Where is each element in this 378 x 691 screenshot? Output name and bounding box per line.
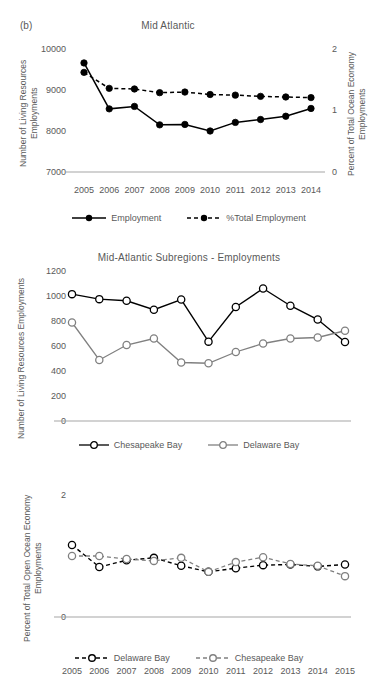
data-point [260, 285, 267, 292]
data-point [232, 559, 239, 566]
legend-item-chesapeake-bay[interactable]: Chesapeake Bay [79, 440, 183, 450]
data-point [283, 113, 289, 119]
data-point [287, 302, 294, 309]
data-point [341, 327, 348, 334]
legend-solid-marker-icon [72, 213, 106, 223]
legend-dashed-open-gray-icon [196, 653, 230, 663]
data-point [308, 105, 314, 111]
data-point [106, 106, 112, 112]
data-point [131, 86, 137, 92]
legend-item-employment[interactable]: Employment [72, 213, 161, 223]
data-point [96, 296, 103, 303]
data-point [205, 360, 212, 367]
data-point [260, 562, 267, 569]
data-point [341, 573, 348, 580]
data-point [232, 303, 239, 310]
data-point [123, 555, 130, 562]
data-point [178, 296, 185, 303]
chart-1-plot [0, 0, 378, 238]
data-point [182, 121, 188, 127]
data-point [207, 91, 213, 97]
data-point [96, 356, 103, 363]
data-point [178, 359, 185, 366]
data-point [150, 306, 157, 313]
data-point [287, 335, 294, 342]
data-point [314, 316, 321, 323]
legend-label-chesapeake-bay-pct: Chesapeake Bay [235, 653, 304, 663]
data-point [257, 93, 263, 99]
legend-label-employment: Employment [111, 213, 161, 223]
legend-dashed-open-black-icon [75, 653, 109, 663]
chart-panel-subregions-employments: Mid-Atlantic Subregions - Employments Nu… [0, 238, 378, 470]
data-point [178, 554, 185, 561]
data-point [123, 297, 130, 304]
data-point [287, 560, 294, 567]
chart-panel-mid-atlantic: (b) Mid Atlantic Number of Living Resour… [0, 0, 378, 238]
data-point [341, 561, 348, 568]
legend-open-marker-gray-icon [208, 440, 238, 450]
chart-1-legend: Employment %Total Employment [0, 213, 378, 223]
series-line [72, 289, 345, 343]
chart-panel-open-ocean-percent: Percent of Total Open Ocean Economy Empl… [0, 470, 378, 691]
data-point [182, 89, 188, 95]
legend-item-delaware-bay-pct[interactable]: Delaware Bay [75, 653, 170, 663]
data-point [232, 348, 239, 355]
data-point [260, 554, 267, 561]
data-point [96, 552, 103, 559]
data-point [150, 335, 157, 342]
legend-dashed-marker-icon [187, 213, 221, 223]
data-point [178, 562, 185, 569]
data-point [68, 541, 75, 548]
data-point [68, 552, 75, 559]
legend-open-marker-black-icon [79, 440, 109, 450]
chart-2-plot [0, 238, 378, 470]
data-point [205, 338, 212, 345]
data-point [205, 568, 212, 575]
x-tick-label: 2014 [293, 185, 329, 195]
data-point [106, 85, 112, 91]
chart-2-legend: Chesapeake Bay Delaware Bay [0, 440, 378, 450]
data-point [283, 94, 289, 100]
legend-label-chesapeake-bay: Chesapeake Bay [114, 440, 183, 450]
data-point [156, 89, 162, 95]
legend-label-delaware-bay-pct: Delaware Bay [114, 653, 170, 663]
data-point [257, 116, 263, 122]
data-point [207, 128, 213, 134]
data-point [68, 291, 75, 298]
data-point [341, 338, 348, 345]
legend-label-total-employment: %Total Employment [226, 213, 306, 223]
legend-item-chesapeake-bay-pct[interactable]: Chesapeake Bay [196, 653, 304, 663]
data-point [96, 563, 103, 570]
data-point [232, 92, 238, 98]
data-point [308, 94, 314, 100]
data-point [314, 562, 321, 569]
data-point [81, 60, 87, 66]
data-point [68, 319, 75, 326]
figure-container: (b) Mid Atlantic Number of Living Resour… [0, 0, 378, 691]
data-point [150, 557, 157, 564]
data-point [123, 341, 130, 348]
series-line [84, 72, 311, 97]
data-point [232, 119, 238, 125]
legend-label-delaware-bay: Delaware Bay [243, 440, 299, 450]
data-point [314, 334, 321, 341]
legend-item-total-employment[interactable]: %Total Employment [187, 213, 306, 223]
chart-3-legend: Delaware Bay Chesapeake Bay [0, 653, 378, 663]
data-point [260, 340, 267, 347]
data-point [156, 122, 162, 128]
data-point [131, 103, 137, 109]
data-point [81, 69, 87, 75]
legend-item-delaware-bay[interactable]: Delaware Bay [208, 440, 299, 450]
